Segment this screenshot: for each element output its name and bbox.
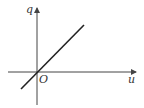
x-axis-label: u [128, 74, 135, 85]
y-axis-label: q [26, 4, 33, 15]
diagram-canvas: q O u [0, 0, 144, 108]
origin-label: O [39, 74, 48, 85]
q-u-graph [0, 0, 144, 108]
proportional-line [21, 25, 84, 89]
